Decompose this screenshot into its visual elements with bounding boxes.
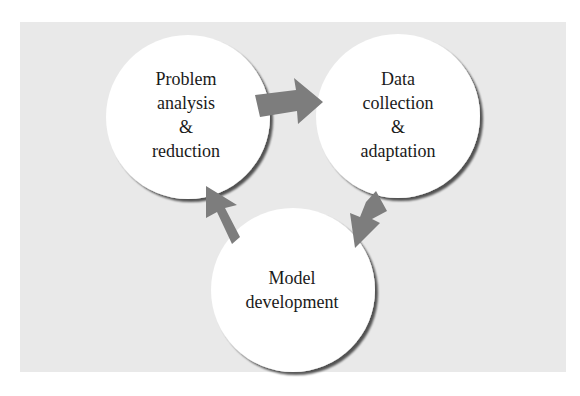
cycle-diagram [0,0,580,396]
node-model-label: Model development [246,266,339,314]
node-data-label: Data collection & adaptation [361,67,436,163]
arrow-model-to-problem-icon [206,186,240,244]
arrow-data-to-model-icon [350,191,387,248]
node-problem-label: Problem analysis & reduction [152,67,220,163]
